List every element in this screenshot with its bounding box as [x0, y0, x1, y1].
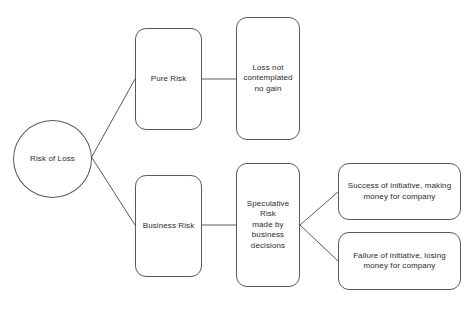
node-failure-of-initiative[interactable]: Failure of initiative, losing money for …: [338, 232, 461, 290]
node-risk-of-loss[interactable]: Risk of Loss: [13, 120, 92, 198]
node-failure-of-initiative-label: Failure of initiative, losing money for …: [349, 251, 450, 272]
edge-speculative-risk-to-failure: [300, 225, 338, 261]
node-loss-not-contemplated[interactable]: Loss not contemplated no gain: [236, 17, 300, 140]
diagram-canvas: Risk of Loss Pure Risk Loss not contempl…: [0, 0, 471, 312]
node-risk-of-loss-label: Risk of Loss: [26, 154, 79, 165]
node-loss-not-contemplated-label: Loss not contemplated no gain: [239, 63, 296, 95]
node-business-risk[interactable]: Business Risk: [135, 175, 202, 277]
node-pure-risk-label: Pure Risk: [147, 74, 191, 85]
node-success-of-initiative[interactable]: Success of initiative, making money for …: [338, 163, 461, 220]
node-success-of-initiative-label: Success of initiative, making money for …: [344, 181, 455, 202]
node-speculative-risk[interactable]: Speculative Risk made by business decisi…: [236, 163, 300, 287]
edge-speculative-risk-to-success: [300, 192, 338, 225]
node-speculative-risk-label: Speculative Risk made by business decisi…: [243, 199, 293, 252]
node-pure-risk[interactable]: Pure Risk: [135, 28, 202, 130]
node-business-risk-label: Business Risk: [139, 221, 199, 232]
